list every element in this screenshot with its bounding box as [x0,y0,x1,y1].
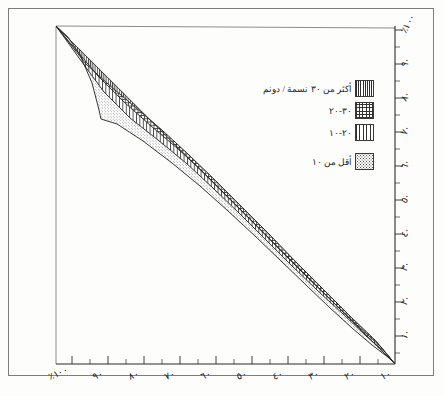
x-tick-label: ٧٠ [163,369,176,382]
y-axis-tick-labels: ٪١٠٠ ٩٠ ٨٠ ٧٠ ٦٠ ٥٠ ٤٠ ٣٠ ٢٠ ١٠ [399,13,417,341]
legend-label-over-30: أكثر من ٣٠ نسمة / دونم [263,85,352,94]
legend-swatch-over-30 [355,80,374,97]
x-tick-label: ٦٠ [199,369,212,382]
figure-page: ٪١٠٠ ٩٠ ٨٠ ٧٠ ٦٠ ٥٠ ٤٠ ٣٠ ٢٠ ١٠ ٪١٠٠ ٩٠ … [0,0,444,396]
x-tick-label: ٥٠ [235,369,248,382]
y-tick-label: ٥٠ [399,191,413,205]
y-tick-label: ٤٠ [399,225,413,239]
legend-swatch-under-10 [355,153,374,170]
y-tick-label: ٩٠ [399,55,413,69]
y-tick-label: ٦٠ [399,157,413,171]
y-tick-label: ٣٠ [399,259,413,273]
y-tick-label: ٨٠ [399,89,413,103]
x-tick-label: ١٠ [379,369,392,382]
legend-label-20-30: ٣٠-٢٠ [329,107,352,116]
x-axis-tick-labels: ٪١٠٠ ٩٠ ٨٠ ٧٠ ٦٠ ٥٠ ٤٠ ٣٠ ٢٠ ١٠ [47,365,392,382]
y-tick-label: ١٠ [399,327,413,341]
x-tick-label: ٨٠ [127,369,140,382]
x-tick-label: ٪١٠٠ [47,365,69,382]
x-tick-label: ٤٠ [271,369,284,382]
x-tick-label: ٢٠ [343,369,356,382]
x-tick-label: ٩٠ [91,369,104,382]
x-axis-ticks [72,356,378,364]
diagonal-equality-line [56,26,395,364]
y-tick-label: ٪١٠٠ [399,13,417,35]
chart-figure: ٪١٠٠ ٩٠ ٨٠ ٧٠ ٦٠ ٥٠ ٤٠ ٣٠ ٢٠ ١٠ ٪١٠٠ ٩٠ … [0,0,444,396]
chart-curves [56,26,395,364]
legend-label-under-10: أقل من ١٠ [312,158,353,167]
lorenz-curve-chart: ٪١٠٠ ٩٠ ٨٠ ٧٠ ٦٠ ٥٠ ٤٠ ٣٠ ٢٠ ١٠ ٪١٠٠ ٩٠ … [0,0,444,396]
legend-swatch-10-20 [355,124,374,141]
legend-label-10-20: ٢٠-١٠ [329,129,352,138]
y-tick-label: ٢٠ [399,293,413,307]
legend-swatch-20-30 [355,102,374,119]
y-tick-label: ٧٠ [399,123,413,137]
x-tick-label: ٣٠ [307,369,320,382]
